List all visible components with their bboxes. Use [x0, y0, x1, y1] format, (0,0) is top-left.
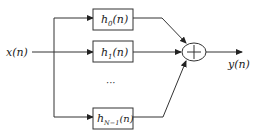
sum-input-0 [133, 18, 186, 43]
input-label: x(n) [6, 46, 28, 59]
filter-block-2: hN−1(n) [93, 108, 134, 129]
ellipsis: ··· [106, 77, 116, 88]
filter-bank-diagram: x(n) h0(n) h1(n) hN−1(n) ··· [0, 0, 254, 133]
filter-block-1: h1(n) [93, 41, 133, 62]
sum-input-2 [133, 61, 186, 117]
svg-text:h0(n): h0(n) [101, 13, 128, 28]
svg-text:h1(n): h1(n) [101, 46, 128, 61]
output-label: y(n) [227, 58, 250, 71]
filter-block-0: h0(n) [93, 9, 133, 30]
summing-junction [182, 43, 206, 61]
